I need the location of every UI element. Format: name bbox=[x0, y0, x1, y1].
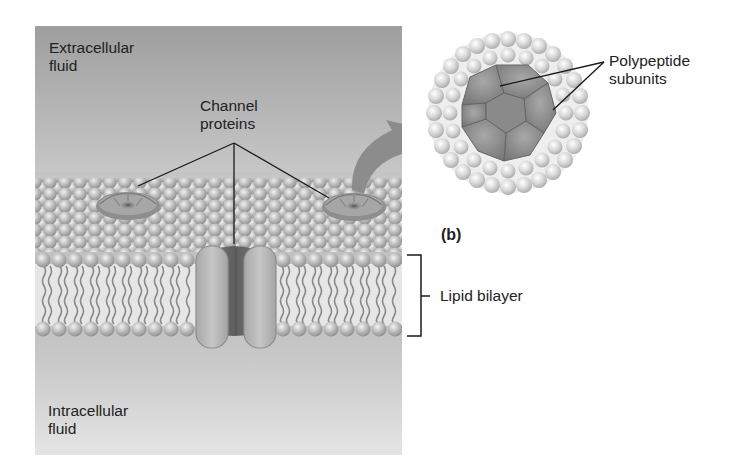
extracellular-fluid-label: Extracellular fluid bbox=[49, 39, 134, 75]
surface-channel-protein-right bbox=[322, 193, 386, 221]
extracellular-line2: fluid bbox=[49, 57, 134, 75]
channel-proteins-line1: Channel bbox=[200, 97, 258, 115]
surface-channel-protein-left bbox=[96, 192, 160, 220]
lipid-bilayer-bracket bbox=[407, 255, 430, 336]
panel-label-b: (b) bbox=[441, 226, 461, 244]
intracellular-fluid-label: Intracellular fluid bbox=[48, 402, 128, 438]
lipid-bilayer-label: Lipid bilayer bbox=[440, 287, 523, 305]
polypeptide-line2: subunits bbox=[609, 70, 690, 88]
intracellular-line1: Intracellular bbox=[48, 402, 128, 420]
channel-proteins-label: Channel proteins bbox=[200, 97, 258, 133]
membrane-channel-diagram: Extracellular fluid Channel proteins Pol… bbox=[0, 0, 750, 468]
intracellular-line2: fluid bbox=[48, 420, 128, 438]
extracellular-line1: Extracellular bbox=[49, 39, 134, 57]
enlarged-channel-top-view bbox=[426, 31, 590, 195]
polypeptide-subunits-label: Polypeptide subunits bbox=[609, 52, 690, 88]
membrane-panel bbox=[35, 26, 428, 455]
channel-proteins-line2: proteins bbox=[200, 115, 258, 133]
transmembrane-channel-protein bbox=[196, 246, 276, 348]
polypeptide-line1: Polypeptide bbox=[609, 52, 690, 70]
